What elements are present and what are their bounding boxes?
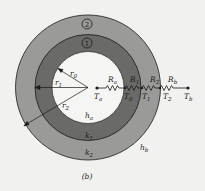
composite-sphere-diagram: 2 1 r0 r1 r2 Ra R1 R2 Rb Ta [0, 0, 205, 191]
svg-text:2: 2 [85, 21, 89, 29]
Rb-label: Rb [167, 75, 178, 85]
Tb-label: Tb [184, 92, 193, 102]
svg-text:1: 1 [85, 40, 89, 48]
hb-label: hb [140, 143, 149, 153]
figure-caption: (b) [82, 172, 93, 181]
T2-label: T2 [163, 92, 172, 102]
